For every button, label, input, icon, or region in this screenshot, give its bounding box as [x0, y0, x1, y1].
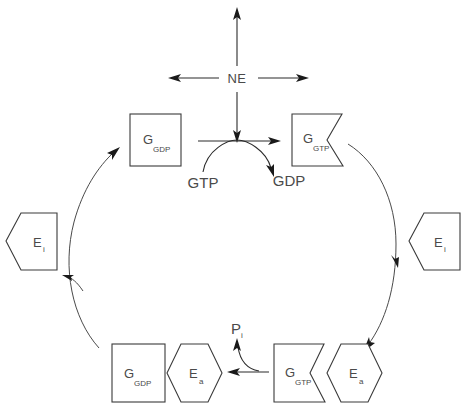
node-g-gdp-top: G GDP [130, 114, 181, 166]
node-ea-right: E a [327, 344, 382, 402]
ne-down-arrow [233, 92, 241, 143]
ea-right-sub-label: a [359, 377, 364, 386]
ne-up-arrow [233, 7, 241, 66]
g-gdp-top-sub-label: GDP [153, 145, 170, 154]
g-protein-cycle-diagram: NE GTP GDP G GDP G GTP [0, 0, 470, 408]
ei-left-base-label: E [33, 235, 42, 250]
g-gtp-bottom-sub-label: GTP [295, 378, 311, 387]
pi-base-label: P [231, 320, 241, 337]
g-gtp-bottom-base-label: G [285, 365, 295, 380]
g-gtp-top-sub-label: GTP [313, 144, 329, 153]
ei-left-sub-label: i [43, 245, 45, 254]
ea-left-sub-label: a [199, 377, 204, 386]
ea-left-base-label: E [189, 366, 198, 381]
g-gdp-bottom-sub-label: GDP [134, 379, 151, 388]
ei-right-sub-label: i [444, 245, 446, 254]
bottom-left-arrow [227, 368, 269, 376]
g-gtp-top-base-label: G [303, 131, 313, 146]
g-gdp-top-base-label: G [143, 132, 153, 147]
node-ea-left: E a [167, 344, 222, 402]
ea-right-base-label: E [349, 366, 358, 381]
ne-right-arrow [258, 74, 309, 82]
exchange-arrow [198, 137, 281, 145]
ne-left-arrow [168, 74, 219, 82]
gtp-label: GTP [188, 174, 219, 191]
diagram-canvas: NE GTP GDP G GDP G GTP [0, 0, 470, 408]
left-arc-arrow [62, 147, 120, 348]
node-g-gtp-bottom: G GTP [274, 344, 325, 402]
g-gdp-bottom-base-label: G [124, 366, 134, 381]
node-g-gtp-top: G GTP [292, 114, 343, 166]
right-arc-arrow [348, 144, 399, 352]
gdp-label: GDP [273, 172, 306, 189]
pi-release-arrow [233, 338, 259, 371]
node-g-gdp-bottom: G GDP [112, 344, 165, 402]
pi-sub-label: i [241, 331, 243, 340]
node-ei-left: E i [6, 213, 57, 270]
ei-right-base-label: E [434, 235, 443, 250]
node-ei-right: E i [409, 213, 460, 270]
gtp-gdp-exchange-arc [203, 140, 274, 177]
ne-label: NE [227, 71, 246, 86]
